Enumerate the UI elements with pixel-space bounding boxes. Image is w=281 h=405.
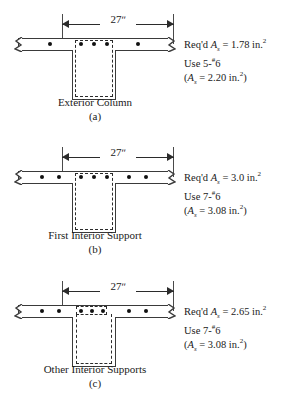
rebar-dot [57, 175, 61, 179]
dimension-line-c: 27ʺ [62, 281, 174, 303]
break-symbol-left-icon [14, 304, 23, 319]
rebar-dot [92, 42, 96, 46]
rebar-dot [90, 309, 94, 313]
rebar-dot [144, 175, 148, 179]
note-block-b: Req'd As = 3.0 in.2 Use 7-#6 (As = 3.08 … [184, 169, 281, 221]
provided-steel-line: (As = 3.08 in.2) [184, 202, 281, 221]
rebar-dot [48, 42, 52, 46]
rebar-dot [105, 42, 109, 46]
rebar-dot [79, 309, 83, 313]
panel-number: (b) [0, 243, 190, 256]
arrowhead-right-icon [167, 20, 174, 28]
use-bars-line: Use 5-#6 [184, 55, 281, 69]
rebar-dot [136, 42, 140, 46]
provided-steel-line: (As = 2.20 in.2) [184, 69, 281, 88]
required-steel-line: Req'd As = 2.65 in.2 [184, 303, 281, 322]
rebar-dot [101, 309, 105, 313]
panel-caption: Other Interior Supports [0, 363, 190, 376]
note-block-c: Req'd As = 2.65 in.2 Use 7-#6 (As = 3.08… [184, 303, 281, 355]
dimension-line-b: 27ʺ [62, 147, 174, 169]
required-steel-line: Req'd As = 1.78 in.2 [184, 36, 281, 55]
rebar-dot [144, 309, 148, 313]
arrowhead-right-icon [167, 287, 174, 295]
break-symbol-right-icon [167, 170, 176, 185]
use-bars-line: Use 7-#6 [184, 188, 281, 202]
note-block-a: Req'd As = 1.78 in.2 Use 5-#6 (As = 2.20… [184, 36, 281, 88]
arrowhead-right-icon [167, 153, 174, 161]
rebar-cage-outline [76, 314, 112, 364]
beam-section-panel-c: 27ʺ Req'd As = 2.65 in.2 Use 7-#6 (As = … [0, 267, 281, 402]
rebar-dot [57, 309, 61, 313]
rebar-dot [105, 175, 109, 179]
dimension-label: 27ʺ [100, 281, 136, 292]
rebar-cage-outline [75, 40, 113, 97]
arrowhead-left-icon [62, 287, 69, 295]
panel-caption: Exterior Column [0, 96, 190, 109]
required-steel-line: Req'd As = 3.0 in.2 [184, 169, 281, 188]
rebar-dot [40, 309, 44, 313]
use-bars-line: Use 7-#6 [184, 322, 281, 336]
rebar-cage-outline [75, 173, 113, 230]
beam-section-panel-b: 27ʺ Req'd As = 3.0 in.2 Use 7-#6 (As = 3… [0, 133, 281, 268]
panel-number: (a) [0, 110, 190, 123]
beam-section-panel-a: 27ʺ Req'd As = 1.78 in.2 Use 5-#6 (As = … [0, 0, 281, 135]
rebar-dot [127, 309, 131, 313]
dimension-line-a: 27ʺ [62, 14, 174, 36]
rebar-dot [40, 175, 44, 179]
break-symbol-right-icon [167, 304, 176, 319]
arrowhead-left-icon [62, 153, 69, 161]
panel-number: (c) [0, 377, 190, 390]
dimension-label: 27ʺ [100, 14, 136, 25]
break-symbol-left-icon [14, 37, 23, 52]
rebar-dot [79, 42, 83, 46]
rebar-dot [127, 175, 131, 179]
break-symbol-left-icon [14, 170, 23, 185]
provided-steel-line: (As = 3.08 in.2) [184, 336, 281, 355]
rebar-dot [92, 175, 96, 179]
dimension-label: 27ʺ [100, 147, 136, 158]
arrowhead-left-icon [62, 20, 69, 28]
rebar-dot [79, 175, 83, 179]
break-symbol-right-icon [167, 37, 176, 52]
panel-caption: First Interior Support [0, 229, 190, 242]
